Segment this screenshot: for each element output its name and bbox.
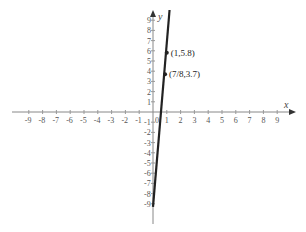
x-tick-label: 8 <box>261 116 265 125</box>
y-tick-label: -7 <box>144 179 151 188</box>
y-tick-label: -6 <box>144 169 151 178</box>
y-tick-label: 6 <box>147 47 151 56</box>
plotted-line <box>153 10 170 207</box>
x-tick-label: 5 <box>220 116 224 125</box>
x-tick-label: -8 <box>39 116 46 125</box>
coordinate-plot: -9-8-7-6-5-4-3-2-10123456789-9-8-7-6-5-4… <box>0 0 306 232</box>
x-tick-label: -6 <box>66 116 73 125</box>
x-axis-arrow-icon <box>289 109 296 115</box>
x-tick-label: -5 <box>80 116 87 125</box>
point-label: (1,5.8) <box>171 48 195 58</box>
x-tick-label: 1 <box>165 116 169 125</box>
point-marker <box>165 51 169 55</box>
x-tick-label: 2 <box>179 116 183 125</box>
y-tick-label: 7 <box>147 37 151 46</box>
ticks: -9-8-7-6-5-4-3-2-10123456789-9-8-7-6-5-4… <box>25 16 279 209</box>
y-tick-label: 5 <box>147 57 151 66</box>
y-tick-label: 9 <box>147 16 151 25</box>
y-tick-label: -9 <box>144 200 151 209</box>
y-tick-label: -3 <box>144 139 151 148</box>
y-tick-label: 8 <box>147 26 151 35</box>
y-tick-label: -5 <box>144 159 151 168</box>
y-tick-label: 3 <box>147 77 151 86</box>
x-tick-label: 3 <box>192 116 196 125</box>
x-tick-label: -3 <box>108 116 115 125</box>
point-label: (7/8,3.7) <box>169 69 200 79</box>
x-tick-label: -4 <box>94 116 101 125</box>
x-tick-label: -9 <box>25 116 32 125</box>
origin-label: 0 <box>155 116 159 125</box>
x-tick-label: 4 <box>206 116 210 125</box>
y-axis-label: y <box>157 11 163 22</box>
y-tick-label: -2 <box>144 128 151 137</box>
x-tick-label: -7 <box>52 116 59 125</box>
x-tick-label: -2 <box>121 116 128 125</box>
y-tick-label: -4 <box>144 149 151 158</box>
y-tick-label: 1 <box>147 98 151 107</box>
line-series <box>153 10 170 207</box>
y-tick-label: -8 <box>144 190 151 199</box>
point-annotations: (1,5.8)(7/8,3.7) <box>163 48 200 79</box>
x-tick-label: 6 <box>234 116 238 125</box>
x-tick-label: 9 <box>275 116 279 125</box>
point-marker <box>163 72 167 76</box>
x-axis-label: x <box>283 99 289 110</box>
y-tick-label: -1 <box>144 118 151 127</box>
y-tick-label: 4 <box>147 67 151 76</box>
x-tick-label: -1 <box>135 116 142 125</box>
y-tick-label: 2 <box>147 88 151 97</box>
x-tick-label: 7 <box>248 116 252 125</box>
